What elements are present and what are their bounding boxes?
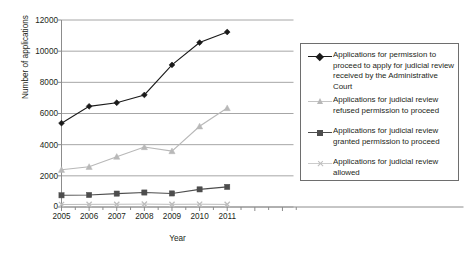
diamond-marker-icon — [307, 51, 333, 62]
chart-container: 12000 10000 8000 6000 4000 2000 0 200520… — [0, 0, 469, 253]
datapoint-diamond-2006 — [86, 103, 92, 109]
x-marker-icon — [307, 158, 333, 169]
datapoint-square-2009 — [169, 191, 174, 196]
datapoint-square-2007 — [114, 191, 119, 196]
x-axis-title: Year — [60, 234, 295, 243]
datapoint-square-2006 — [87, 192, 92, 197]
legend-item-allowed: Applications for judicial review allowed — [307, 157, 457, 178]
legend-label-received: Applications for permission to proceed t… — [333, 50, 457, 92]
datapoint-square-2010 — [197, 187, 202, 192]
chart-legend: Applications for permission to proceed t… — [300, 43, 459, 181]
legend-item-granted: Applications for judicial review granted… — [307, 126, 457, 147]
y-tick-2000: 2000 — [16, 173, 58, 181]
y-tick-0: 0 — [16, 203, 58, 211]
legend-label-allowed: Applications for judicial review allowed — [333, 157, 457, 178]
datapoint-triangle-2011 — [224, 105, 230, 111]
triangle-marker-icon — [307, 96, 333, 107]
series-line-diamond — [62, 32, 228, 123]
series-line-triangle — [62, 108, 228, 170]
legend-item-received: Applications for permission to proceed t… — [307, 50, 457, 92]
datapoint-square-2011 — [225, 184, 230, 189]
x-tick-2011: 2011 — [207, 212, 247, 221]
datapoint-square-2005 — [59, 193, 64, 198]
legend-item-refused: Applications for judicial review refused… — [307, 95, 457, 116]
datapoint-square-2008 — [142, 190, 147, 195]
datapoint-diamond-2007 — [114, 100, 120, 106]
legend-label-granted: Applications for judicial review granted… — [333, 126, 457, 147]
datapoint-triangle-2010 — [196, 123, 202, 129]
square-marker-icon — [307, 127, 333, 138]
y-tick-4000: 4000 — [16, 142, 58, 150]
legend-label-refused: Applications for judicial review refused… — [333, 95, 457, 116]
y-axis-title: Number of applications — [21, 0, 31, 127]
datapoint-diamond-2011 — [224, 29, 230, 35]
datapoint-diamond-2005 — [59, 120, 65, 126]
